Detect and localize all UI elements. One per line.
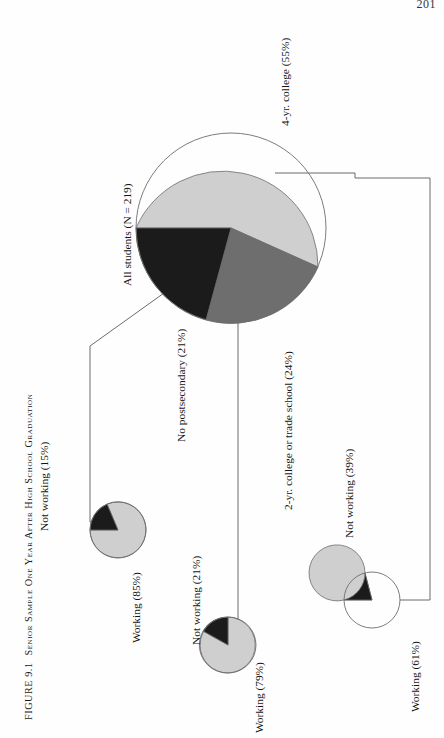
main-slice-label-four-year: 4-yr. college (55%) (280, 38, 291, 126)
sub-pie-no-postsecondary-label-working: Working (85%) (131, 572, 142, 643)
main-slice-label-no-postsecondary: No postsecondary (21%) (176, 329, 187, 442)
leader-line-no-postsecondary (90, 283, 178, 522)
figure-page: 201 FIGURE 9.1Senior Sample One Year Aft… (0, 0, 444, 738)
sub-pie-two-year-label-working: Working (79%) (254, 662, 265, 733)
sub-pie-four-year-label-working: Working (61%) (410, 641, 421, 712)
sub-pie-two-year-label-not-working: Not working (21%) (191, 556, 202, 645)
sub-pie-four-year-label-not-working: Not working (39%) (344, 449, 355, 538)
main-slice-label-two-year: 2-yr. college or trade school (24%) (283, 351, 294, 510)
sub-pie-no-postsecondary-label-not-working: Not working (15%) (39, 442, 50, 531)
leader-line-two-year (228, 303, 238, 630)
main-pie-center-label: All students (N = 219) (122, 183, 133, 286)
figure-graphic (0, 0, 444, 738)
